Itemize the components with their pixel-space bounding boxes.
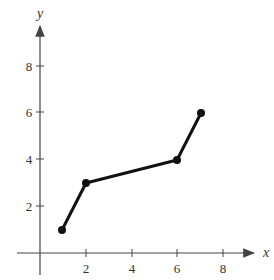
chart: 2 4 6 8 2 4 6 8 x y	[0, 0, 274, 280]
y-tick-labels: 2 4 6 8	[26, 59, 33, 214]
y-tick-label: 6	[26, 105, 33, 120]
y-tick-label: 8	[26, 59, 33, 74]
x-tick-label: 4	[129, 261, 136, 276]
data-series	[58, 109, 205, 234]
data-point	[173, 156, 181, 164]
y-tick-label: 2	[26, 199, 33, 214]
data-point	[58, 226, 66, 234]
y-axis-label: y	[35, 6, 44, 21]
x-axis-label: x	[262, 245, 270, 260]
x-tick-label: 8	[220, 261, 227, 276]
x-tick-label: 2	[83, 261, 90, 276]
data-point	[197, 109, 205, 117]
data-point	[82, 179, 90, 187]
x-tick-labels: 2 4 6 8	[83, 261, 227, 276]
x-tick-label: 6	[174, 261, 181, 276]
y-tick-label: 4	[26, 152, 33, 167]
